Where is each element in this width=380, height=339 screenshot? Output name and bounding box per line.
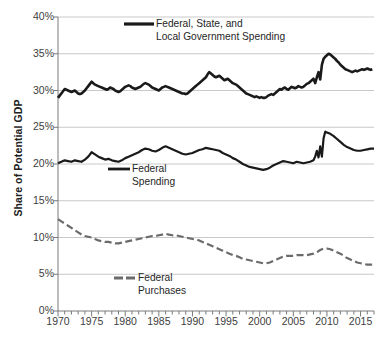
- chart-container: Share of Potential GDP 0%5%10%15%20%25%3…: [0, 0, 380, 339]
- legend-label-total-government-spending: Federal, State, and Local Government Spe…: [156, 18, 285, 43]
- plot-area: [0, 0, 380, 339]
- legend-label-federal-spending: Federal Spending: [132, 163, 175, 188]
- series-line-2: [58, 219, 374, 265]
- series-line-0: [58, 54, 372, 98]
- legend-label-federal-purchases: Federal Purchases: [138, 272, 186, 297]
